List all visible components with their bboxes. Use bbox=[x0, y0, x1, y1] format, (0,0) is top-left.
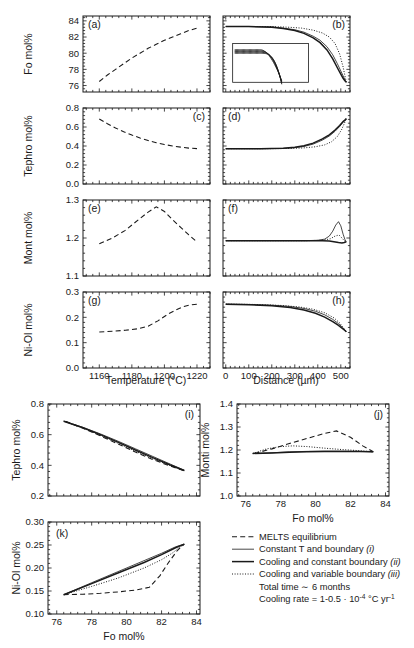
panel-e-ytick: 1.1 bbox=[66, 270, 79, 281]
panel-g-series-0 bbox=[99, 304, 197, 332]
panel-j-xtick: 80 bbox=[310, 498, 321, 509]
panel-g-xtick: 1220 bbox=[186, 370, 207, 381]
axis-label-distance: Distance (µm) bbox=[253, 374, 319, 386]
axis-label-temperature: Temperature (°C) bbox=[106, 374, 187, 386]
legend: MELTS equilibriumConstant T and boundary… bbox=[232, 532, 401, 604]
panel-k-xtick: 84 bbox=[191, 616, 202, 627]
panel-h-frame bbox=[223, 292, 350, 368]
panel-j-xtick: 82 bbox=[345, 498, 356, 509]
panel-a-series-0 bbox=[99, 28, 197, 81]
axis-label-niol-g: Ni-Ol mol% bbox=[22, 303, 34, 356]
multi-panel-figure: 7678808284(a)(b)0.00.20.40.60.8(c)(d)1.1… bbox=[0, 0, 414, 648]
panel-g: 0.00.10.20.31160118012001220(g) bbox=[66, 286, 210, 381]
panel-k-xtick: 82 bbox=[156, 616, 167, 627]
panel-c-ytick: 0.0 bbox=[66, 178, 79, 189]
panel-j-ytick: 1.0 bbox=[220, 490, 233, 501]
panel-label-a: (a) bbox=[88, 18, 101, 30]
legend-label-2: Cooling and constant boundary (ii) bbox=[259, 557, 401, 567]
panel-i-frame bbox=[48, 404, 200, 496]
axis-label-niol-k: Ni-Ol mol% bbox=[10, 541, 22, 594]
axis-label-monti-j: Monti mol% bbox=[199, 423, 211, 478]
panel-label-d: (d) bbox=[228, 110, 241, 122]
panel-h-series-0 bbox=[226, 304, 347, 332]
panel-f-frame bbox=[223, 200, 350, 276]
panel-a-ytick: 80 bbox=[68, 48, 79, 59]
panel-a-ytick: 76 bbox=[68, 80, 79, 91]
panel-a: 7678808284(a) bbox=[68, 15, 210, 92]
panel-g-frame bbox=[83, 292, 210, 368]
panel-a-ytick: 84 bbox=[68, 15, 79, 26]
axis-label-tephro-c: Tephro mol% bbox=[22, 115, 34, 176]
panel-h-series-2 bbox=[226, 304, 347, 332]
panel-c-ytick: 0.6 bbox=[66, 121, 79, 132]
panel-label-c: (c) bbox=[193, 110, 205, 122]
panel-label-f: (f) bbox=[228, 202, 238, 214]
panel-c: 0.00.20.40.60.8(c) bbox=[66, 102, 210, 189]
panel-j-series-2 bbox=[253, 452, 374, 454]
panel-k-xtick: 76 bbox=[51, 616, 62, 627]
legend-label-0: MELTS equilibrium bbox=[259, 532, 337, 542]
panel-i: 0.20.40.60.8(i) bbox=[31, 398, 200, 501]
panel-k-frame bbox=[48, 522, 200, 614]
panel-j: 1.01.11.21.31.47678808284(j) bbox=[220, 398, 391, 509]
panel-c-ytick: 0.8 bbox=[66, 102, 79, 113]
legend-note-cooling-rate: Cooling rate = 1-0.5 · 10-4 °C yr-1 bbox=[259, 593, 395, 604]
panel-a-ytick: 82 bbox=[68, 31, 79, 42]
panel-e-ytick: 1.3 bbox=[66, 194, 79, 205]
panel-label-h: (h) bbox=[332, 294, 345, 306]
panel-d-series-0 bbox=[226, 119, 347, 149]
panel-d: (d) bbox=[223, 108, 350, 184]
axis-label-fo-a: Fo mol% bbox=[22, 33, 34, 74]
panel-i-ytick: 0.2 bbox=[31, 490, 44, 501]
panel-j-ytick: 1.4 bbox=[220, 398, 233, 409]
panel-h: 0100200300400500(h) bbox=[223, 292, 350, 381]
legend-note-total-time: Total time ∼ 6 months bbox=[259, 582, 351, 592]
panel-label-g: (g) bbox=[88, 294, 101, 306]
panel-j-frame bbox=[237, 404, 389, 496]
axis-label-tephro-i: Tephro mol% bbox=[10, 419, 22, 480]
panel-d-series-2 bbox=[226, 119, 347, 149]
panel-j-ytick: 1.2 bbox=[220, 444, 233, 455]
axis-label-fo-j: Fo mol% bbox=[292, 512, 333, 524]
axis-label-fo-k: Fo mol% bbox=[103, 630, 144, 642]
axis-label-mont-e: Mont mol% bbox=[22, 212, 34, 265]
panel-e-ytick: 1.2 bbox=[66, 232, 79, 243]
panel-k-xtick: 78 bbox=[86, 616, 97, 627]
panel-i-ytick: 0.8 bbox=[31, 398, 44, 409]
panel-f: (f) bbox=[223, 200, 350, 276]
panel-g-ytick: 0.2 bbox=[66, 312, 79, 323]
panel-c-ytick: 0.4 bbox=[66, 140, 79, 151]
panel-c-series-0 bbox=[99, 119, 197, 149]
panel-label-i: (i) bbox=[185, 408, 194, 420]
panel-k-ytick: 0.20 bbox=[26, 562, 45, 573]
panel-j-xtick: 84 bbox=[380, 498, 391, 509]
panel-j-ytick: 1.1 bbox=[220, 467, 233, 478]
panel-j-series-0 bbox=[254, 431, 373, 454]
legend-label-1: Constant T and boundary (i) bbox=[259, 544, 374, 554]
panel-e-series-0 bbox=[99, 207, 197, 244]
legend-label-3: Cooling and variable boundary (iii) bbox=[259, 569, 400, 579]
panel-c-frame bbox=[83, 108, 210, 184]
panel-i-ytick: 0.6 bbox=[31, 429, 44, 440]
panel-k: 0.100.150.200.250.307678808284(k) bbox=[26, 516, 202, 627]
panel-j-xtick: 78 bbox=[275, 498, 286, 509]
panel-label-k: (k) bbox=[56, 527, 68, 539]
panel-label-e: (e) bbox=[88, 202, 101, 214]
panel-j-xtick: 76 bbox=[240, 498, 251, 509]
panel-e-frame bbox=[83, 200, 210, 276]
panel-label-j: (j) bbox=[374, 408, 383, 420]
panel-a-frame bbox=[83, 16, 210, 92]
panel-f-series-0 bbox=[226, 222, 347, 242]
panel-k-ytick: 0.15 bbox=[26, 585, 45, 596]
panel-k-xtick: 80 bbox=[121, 616, 132, 627]
panel-g-ytick: 0.0 bbox=[66, 362, 79, 373]
panel-b: (b) bbox=[223, 16, 350, 92]
panel-d-series-1 bbox=[226, 119, 347, 149]
panel-i-ytick: 0.4 bbox=[31, 460, 44, 471]
panel-d-frame bbox=[223, 108, 350, 184]
panel-j-ytick: 1.3 bbox=[220, 421, 233, 432]
panel-h-series-1 bbox=[226, 304, 347, 332]
panel-k-ytick: 0.10 bbox=[26, 608, 45, 619]
panel-g-ytick: 0.3 bbox=[66, 286, 79, 297]
panel-label-b: (b) bbox=[332, 18, 345, 30]
